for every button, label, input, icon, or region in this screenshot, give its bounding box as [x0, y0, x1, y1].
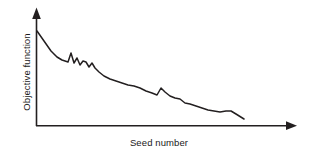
- y-axis-label: Objective function: [21, 24, 32, 120]
- y-axis: [32, 8, 41, 127]
- figure-container: Objective function Seed number: [0, 0, 310, 159]
- x-axis-arrowhead-icon: [286, 121, 297, 130]
- x-axis-label: Seed number: [111, 137, 207, 148]
- y-axis-arrowhead-icon: [32, 8, 41, 20]
- objective-function-curve: [37, 31, 244, 119]
- x-axis: [36, 121, 297, 130]
- line-chart-plot: [0, 0, 310, 159]
